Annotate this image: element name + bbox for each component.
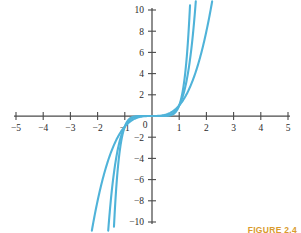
x-tick-label: 4 xyxy=(258,123,263,133)
x-tick-label: −5 xyxy=(11,123,21,133)
y-tick-label: −2 xyxy=(134,133,144,143)
cartesian-plot: −5−4−3−2−112345 108642−2−4−6−8−10 0 xyxy=(0,0,301,233)
y-tick-label: −4 xyxy=(134,154,144,164)
figure-container: −5−4−3−2−112345 108642−2−4−6−8−10 0 FIGU… xyxy=(0,0,301,233)
y-tick-label: 6 xyxy=(139,48,144,58)
x-tick-label: −4 xyxy=(38,123,48,133)
y-tick-label: −6 xyxy=(134,175,144,185)
figure-caption: FIGURE 2.4 xyxy=(248,225,297,233)
origin-label: 0 xyxy=(143,120,148,130)
y-tick-label: 2 xyxy=(139,90,144,100)
x-tick-label: 3 xyxy=(231,123,236,133)
y-tick-label: 10 xyxy=(135,5,145,15)
y-tick-label: 8 xyxy=(139,27,144,37)
y-tick-label: −8 xyxy=(134,196,144,206)
x-tick-label: 5 xyxy=(286,123,291,133)
x-tick-label: −3 xyxy=(65,123,75,133)
x-axis-tick-labels: −5−4−3−2−112345 xyxy=(11,123,291,133)
x-tick-label: −2 xyxy=(93,123,103,133)
x-tick-label: 2 xyxy=(204,123,209,133)
x-tick-label: 1 xyxy=(177,123,182,133)
y-tick-label: 4 xyxy=(139,69,144,79)
y-tick-label: −10 xyxy=(129,217,144,227)
